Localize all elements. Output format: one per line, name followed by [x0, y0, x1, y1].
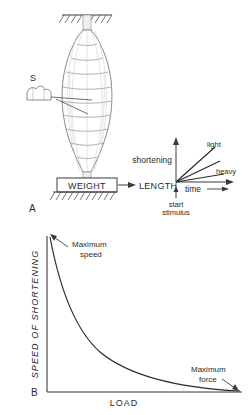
tendon-upper: [83, 15, 91, 30]
inset-y-axis-label: shortening: [132, 155, 172, 165]
panel-b-x-axis-label: LOAD: [110, 398, 139, 408]
inset-x-axis-label: time: [185, 184, 201, 194]
inset-chart-shortening-vs-time: shortening time light heavy start stimul…: [132, 137, 236, 217]
spindle-receptor-icon: [27, 86, 51, 100]
max-force-label-line1: Maximum: [191, 365, 226, 374]
max-speed-pointer-icon: [50, 234, 68, 247]
panel-b: Maximum speed Maximum force SPEED OF SHO…: [30, 234, 242, 408]
spindle-label: S: [30, 73, 36, 83]
inset-time-arrow-icon: [222, 187, 229, 192]
inset-series-label-heavy: heavy: [216, 167, 236, 176]
max-force-label-line2: force: [199, 375, 217, 384]
tendon-lower: [83, 172, 91, 178]
max-force-pointer-icon: [222, 379, 239, 391]
max-speed-label-line2: speed: [80, 250, 102, 259]
length-arrow-icon: [118, 182, 136, 188]
inset-x-axis-arrow-icon: [226, 179, 234, 185]
panel-a-label: A: [29, 203, 36, 214]
panel-b-label: B: [31, 387, 38, 398]
max-speed-label-line1: Maximum: [72, 240, 107, 249]
length-label: LENGTH: [139, 181, 177, 191]
inset-series-label-light: light: [207, 140, 222, 149]
support-bottom-icon: [50, 192, 117, 200]
stimulus-label-line2: stimulus: [162, 208, 190, 217]
inset-y-axis-arrow-icon: [173, 137, 179, 145]
weight-label: WEIGHT: [68, 181, 106, 191]
figure-muscle-contraction: S WEIGHT LENGTH: [0, 0, 252, 415]
panel-a: S WEIGHT LENGTH: [27, 15, 177, 214]
muscle-body: [62, 30, 112, 172]
panel-b-y-axis-label: SPEED OF SHORTENING: [30, 250, 40, 379]
